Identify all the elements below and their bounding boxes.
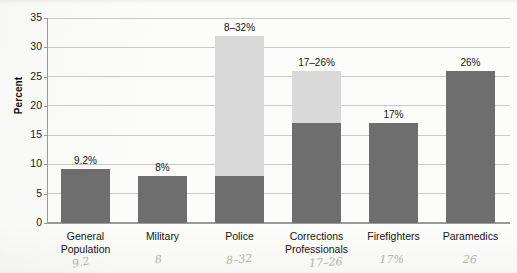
bar-value-label: 17% [383,109,403,120]
bar-value-label: 9.2% [74,155,97,166]
bar-segment-lower-value [215,176,264,223]
bar-3[interactable] [215,36,264,223]
y-axis-tickmark [44,77,48,78]
gridline [48,47,510,48]
y-axis-tickmark [44,164,48,165]
bar-2[interactable] [138,176,187,223]
gridline [48,18,510,19]
x-axis-label-line: Corrections [278,230,355,243]
x-axis-label-line: General [47,230,124,243]
y-axis-tick-label: 10 [12,157,42,169]
y-axis-tickmark [44,106,48,107]
plot-area: 05101520253035 [47,18,509,223]
bar-segment-lower-value [61,169,110,223]
y-axis-tick-label: 15 [12,128,42,140]
handwritten-annotation: 26 [462,253,477,267]
handwritten-annotation: 8 [154,253,163,267]
y-axis-tick-label: 30 [12,40,42,52]
y-axis-tickmark [44,135,48,136]
y-axis-tickmark [44,223,48,224]
gridline [48,76,510,77]
bar-segment-lower-value [446,71,495,223]
handwritten-annotation: 9.2 [70,254,90,270]
bar-segment-lower-value [138,176,187,223]
x-axis-label-line: Firefighters [355,230,432,243]
gridline [48,193,510,194]
x-axis-label-line: Police [201,230,278,243]
x-axis-label-5: Firefighters [355,230,432,243]
handwritten-annotation: 17–26 [308,255,342,270]
gridline [48,164,510,165]
bar-4[interactable] [292,71,341,223]
gridline [48,105,510,106]
bar-1[interactable] [61,169,110,223]
bar-segment-upper-range [292,71,341,124]
bar-value-label: 26% [460,57,480,68]
bar-value-label: 17–26% [298,57,335,68]
y-axis-tick-label: 5 [12,187,42,199]
x-axis-label-3: Police [201,230,278,243]
x-axis-label-1: GeneralPopulation [47,230,124,256]
y-axis-tick-label: 25 [12,70,42,82]
bar-segment-lower-value [369,123,418,223]
y-axis-tickmark [44,194,48,195]
gridline [48,135,510,136]
x-axis-label-4: CorrectionsProfessionals [278,230,355,256]
y-axis-tick-label: 20 [12,99,42,111]
y-axis-tickmark [44,18,48,19]
x-axis-label-line: Paramedics [432,230,509,243]
bar-value-label: 8% [155,162,169,173]
y-axis-tick-label: 35 [12,11,42,23]
x-axis-label-6: Paramedics [432,230,509,243]
x-axis-label-line: Military [124,230,201,243]
y-axis-title: Percent [13,56,24,136]
bar-6[interactable] [446,71,495,223]
handwritten-annotation: 8–32 [225,252,253,268]
x-axis-baseline [48,222,510,224]
y-axis-tick-label: 0 [12,216,42,228]
bar-value-label: 8–32% [224,22,255,33]
x-axis-label-line: Professionals [278,243,355,256]
y-axis-tickmark [44,47,48,48]
bar-segment-upper-range [215,36,264,177]
x-axis-label-2: Military [124,230,201,243]
bar-segment-lower-value [292,123,341,223]
bar-chart: Percent 05101520253035 9.2%GeneralPopula… [0,0,517,273]
handwritten-annotation: 17% [380,253,404,266]
bar-5[interactable] [369,123,418,223]
